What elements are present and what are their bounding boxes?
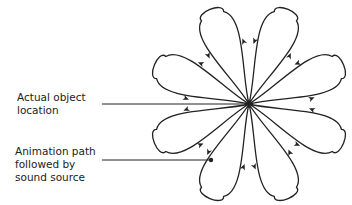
- object-location-point: [247, 102, 251, 106]
- petal-loop: [249, 104, 345, 153]
- petal-loop: [249, 8, 298, 104]
- petal-loop: [200, 104, 249, 200]
- flower-path-diagram: [0, 0, 352, 205]
- petal-loop: [153, 55, 249, 104]
- sound-source-dot: [209, 158, 213, 162]
